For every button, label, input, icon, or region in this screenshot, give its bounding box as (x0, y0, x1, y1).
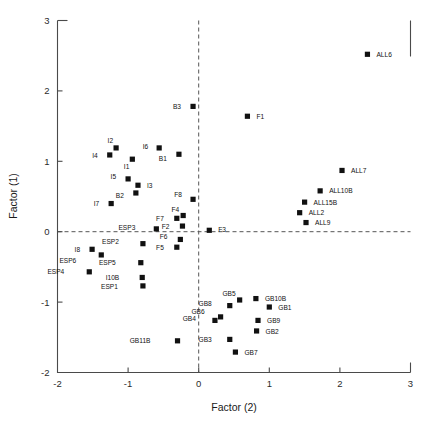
point-marker-square (253, 296, 258, 301)
point-label: ALL15B (314, 199, 338, 206)
point-label: I8 (75, 246, 81, 253)
point-label: F1 (256, 113, 264, 120)
point-marker-square (237, 297, 242, 302)
data-point: B1 (159, 152, 182, 163)
point-marker-square (174, 245, 179, 250)
point-label: I5 (111, 173, 117, 180)
point-label: ESP6 (59, 257, 76, 264)
data-point: ESP2 (102, 238, 145, 247)
point-label: GB4 (183, 315, 197, 322)
data-point: GB2 (254, 328, 279, 335)
data-point: F7 (156, 215, 179, 222)
point-marker-square (140, 275, 145, 280)
point-label: ALL9 (315, 219, 331, 226)
data-point: I7 (94, 200, 114, 207)
point-marker-square (233, 349, 238, 354)
point-label: ALL2 (309, 209, 325, 216)
data-point: GB10B (253, 295, 286, 302)
point-label: ALL6 (376, 51, 392, 58)
data-point: I5 (111, 173, 131, 182)
axis-spines (58, 21, 411, 373)
data-point: GB4 (183, 315, 218, 323)
point-marker-square (227, 303, 232, 308)
data-point: B3 (173, 103, 196, 110)
point-label: GB7 (244, 349, 258, 356)
data-point: I10B (106, 274, 145, 281)
point-label: F5 (156, 244, 164, 251)
point-label: I7 (94, 200, 100, 207)
point-marker-square (140, 241, 145, 246)
point-marker-square (175, 338, 180, 343)
data-point: I8 (75, 246, 95, 253)
x-tick-label: 3 (408, 378, 413, 389)
point-marker-square (245, 114, 250, 119)
data-point: GB6 (191, 308, 223, 320)
point-marker-square (89, 247, 94, 252)
point-marker-square (190, 197, 195, 202)
point-marker-square (130, 157, 135, 162)
point-label: GB11B (130, 337, 151, 344)
data-point: F1 (245, 113, 265, 120)
data-point: ALL6 (365, 51, 392, 58)
y-tick-label: 0 (44, 226, 49, 237)
data-point: GB5 (222, 290, 242, 303)
point-label: GB2 (266, 328, 280, 335)
point-marker-square (302, 200, 307, 205)
point-label: B1 (159, 155, 167, 162)
data-point: GB9 (255, 317, 280, 324)
point-marker-square (297, 210, 302, 215)
point-marker-square (87, 269, 92, 274)
point-label: I10B (106, 274, 120, 281)
data-point: ESP3 (118, 224, 158, 231)
point-label: GB5 (222, 290, 236, 297)
y-tick-label: -2 (41, 367, 49, 378)
x-tick-label: 0 (196, 378, 201, 389)
x-tick-label: 2 (337, 378, 342, 389)
x-tick-label: 1 (267, 378, 272, 389)
data-point: B2 (116, 190, 139, 199)
data-point: F2 (162, 223, 185, 230)
y-tick-label: -1 (41, 297, 49, 308)
point-label: I3 (147, 182, 153, 189)
point-marker-square (178, 237, 183, 242)
point-marker-square (126, 176, 131, 181)
point-marker-square (154, 226, 159, 231)
point-marker-square (113, 145, 118, 150)
point-label: GB6 (191, 308, 205, 315)
zero-reference-lines (58, 21, 411, 373)
data-point: ESP4 (47, 268, 91, 275)
point-label: ALL7 (351, 167, 367, 174)
point-label: F4 (171, 206, 179, 213)
data-points: ALL6B3F1I2I6I4B1I1ALL7I5I3ALL10BB2F8ALL1… (47, 51, 392, 356)
data-point: GB1 (267, 304, 292, 311)
scatter-plot-figure: -2-10123-2-10123 ALL6B3F1I2I6I4B1I1ALL7I… (0, 0, 428, 422)
point-label: ESP2 (102, 238, 119, 245)
point-marker-square (303, 220, 308, 225)
point-marker-square (255, 318, 260, 323)
point-label: GB10B (265, 295, 287, 302)
point-label: ESP3 (118, 224, 135, 231)
data-point: GB3 (199, 336, 233, 343)
plot-canvas: -2-10123-2-10123 ALL6B3F1I2I6I4B1I1ALL7I… (0, 0, 428, 422)
data-point: GB11B (130, 337, 180, 344)
data-point: ESP5 (99, 259, 143, 266)
point-label: ESP5 (99, 259, 116, 266)
point-marker-square (190, 104, 195, 109)
point-label: GB3 (199, 336, 213, 343)
data-point: ALL7 (339, 167, 366, 174)
x-tick-label: -2 (53, 378, 61, 389)
data-point: F6 (160, 233, 183, 242)
point-marker-square (218, 314, 223, 319)
point-marker-square (181, 213, 186, 218)
data-point: F8 (174, 191, 195, 202)
axes-frame (58, 21, 411, 373)
data-point: ESP1 (101, 283, 145, 290)
point-marker-square (318, 188, 323, 193)
point-marker-square (138, 260, 143, 265)
data-point: F3 (207, 226, 227, 233)
point-label: ALL10B (329, 187, 353, 194)
point-label: GB8 (199, 300, 213, 307)
point-marker-square (135, 183, 140, 188)
point-marker-square (133, 190, 138, 195)
point-marker-square (140, 283, 145, 288)
